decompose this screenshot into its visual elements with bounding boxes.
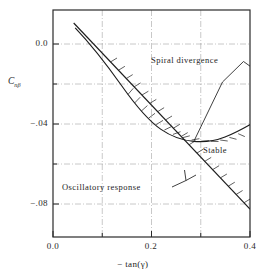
x-axis-label: − tan(γ) (117, 259, 149, 269)
y-axis-label-subscript: nβ (14, 81, 20, 88)
ytick-label-1: −.04 (16, 118, 48, 128)
xtick-label-1: 0.2 (136, 241, 166, 251)
xtick-label-0: 0.0 (38, 241, 68, 251)
y-axis-label: Cnβ (8, 76, 21, 88)
ytick-label-2: −.08 (16, 198, 48, 208)
annotation-oscillatory-response: Oscillatory response (62, 182, 141, 192)
xtick-label-2: 0.4 (235, 241, 265, 251)
ytick-label-0: 0.0 (16, 38, 48, 48)
annotation-stable: Stable (203, 145, 227, 155)
annotation-spiral-divergence: Spiral divergence (151, 55, 218, 65)
